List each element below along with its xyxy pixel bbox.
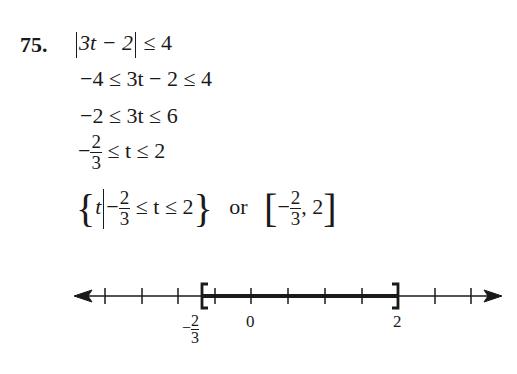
- neg-sign: −: [182, 319, 191, 336]
- label-neg-two-thirds: −23: [182, 313, 199, 346]
- label-zero: 0: [246, 312, 255, 332]
- fraction: 23: [191, 313, 199, 346]
- numerator: 2: [191, 313, 199, 330]
- label-two: 2: [393, 312, 402, 332]
- denominator: 3: [191, 329, 199, 346]
- number-line: [0, 0, 517, 374]
